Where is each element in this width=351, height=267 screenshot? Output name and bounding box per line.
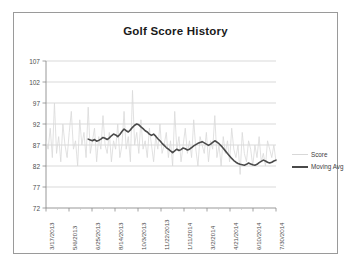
x-axis-label: 11/22/2013: [163, 219, 170, 250]
x-axis-label: 7/30/2014: [278, 222, 285, 250]
legend-swatch-moving-avg-icon: [292, 166, 308, 168]
legend-item-score: Score: [292, 149, 350, 160]
legend-swatch-score-icon: [292, 154, 308, 155]
y-axis-label: 107: [18, 58, 40, 65]
chart-frame: Golf Score History Score Moving Avg 7277…: [13, 12, 338, 254]
legend-label-moving-avg: Moving Avg: [311, 163, 343, 170]
chart-canvas: [14, 13, 339, 255]
y-axis-label: 82: [18, 163, 40, 170]
x-axis-label: 3/17/2013: [48, 222, 55, 250]
y-axis-label: 97: [18, 100, 40, 107]
chart-legend: Score Moving Avg: [292, 149, 350, 173]
x-axis-label: 8/14/2013: [117, 222, 124, 250]
y-axis-label: 87: [18, 142, 40, 149]
y-axis-label: 102: [18, 79, 40, 86]
x-axis-label: 10/3/2013: [140, 222, 147, 250]
x-axis-label: 1/11/2014: [186, 223, 193, 250]
y-axis-label: 72: [18, 205, 40, 212]
y-axis-label: 92: [18, 121, 40, 128]
x-axis-label: 3/2/2014: [209, 226, 216, 250]
x-axis-label: 6/10/2014: [255, 222, 262, 250]
y-axis-label: 77: [18, 184, 40, 191]
x-axis-label: 6/25/2013: [94, 222, 101, 250]
legend-item-moving-avg: Moving Avg: [292, 161, 350, 172]
x-axis-label: 5/6/2013: [71, 226, 78, 250]
x-axis-label: 4/21/2014: [232, 222, 239, 250]
legend-label-score: Score: [311, 151, 327, 158]
